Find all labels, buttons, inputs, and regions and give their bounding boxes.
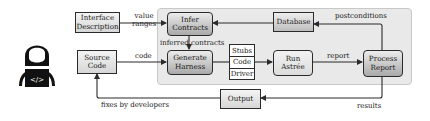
generate-harness-node: Generate Harness xyxy=(167,50,213,75)
value-ranges-line2: ranges xyxy=(132,20,156,28)
value-ranges-line1: value xyxy=(135,12,154,20)
generate-harness-line2: Harness xyxy=(175,62,205,71)
output-node: Output xyxy=(220,89,261,109)
output-label: Output xyxy=(228,95,254,104)
edge-label-fixes-by-developers: fixes by developers xyxy=(101,101,169,109)
developer-with-laptop-icon: </> xyxy=(16,36,58,88)
edge-label-inferred-contracts: inferred contracts xyxy=(160,39,224,47)
infer-contracts-node: Infer Contracts xyxy=(167,12,213,36)
harness-part-stubs: Stubs xyxy=(230,45,254,56)
process-report-line2: Report xyxy=(371,63,396,72)
run-astree-node: Run Astrée xyxy=(273,50,313,76)
edge-label-report: report xyxy=(327,52,349,60)
harness-part-driver: Driver xyxy=(230,68,254,79)
edge-label-code: code xyxy=(135,52,152,60)
source-code-node: Source Code xyxy=(77,50,117,74)
interface-description-node: Interface Description xyxy=(75,12,120,33)
harness-part-code: Code xyxy=(230,56,254,67)
edge-label-results: results xyxy=(357,102,381,110)
infer-contracts-line2: Contracts xyxy=(172,23,208,32)
edge-label-postconditions: postconditions xyxy=(335,12,387,20)
database-node: Database xyxy=(273,12,314,32)
harness-parts-stack: Stubs Code Driver xyxy=(229,44,255,80)
interface-description-line2: Description xyxy=(76,22,118,31)
edge-label-value-ranges: value ranges xyxy=(132,12,156,28)
process-report-node: Process Report xyxy=(363,50,403,77)
code-glyph: </> xyxy=(30,76,44,84)
run-astree-line2: Astrée xyxy=(281,62,305,71)
source-code-line2: Code xyxy=(88,61,107,70)
database-label: Database xyxy=(276,18,310,27)
